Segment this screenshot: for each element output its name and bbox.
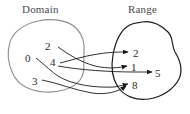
domain-element-0: 0 bbox=[25, 53, 31, 64]
range-element-1: 1 bbox=[131, 62, 137, 73]
arrow-4-to-2 bbox=[60, 52, 128, 63]
domain-set-label: Domain bbox=[22, 3, 59, 15]
arrow-4-to-5 bbox=[58, 66, 152, 72]
domain-element-2: 2 bbox=[45, 41, 51, 52]
range-element-5: 5 bbox=[155, 68, 161, 79]
domain-element-4: 4 bbox=[50, 57, 56, 68]
range-set-label: Range bbox=[128, 3, 157, 15]
mapping-diagram: Domain Range 2 0 4 3 2 1 5 8 bbox=[0, 0, 190, 114]
domain-element-3: 3 bbox=[32, 76, 38, 87]
range-element-8: 8 bbox=[132, 80, 138, 91]
range-element-2: 2 bbox=[133, 48, 139, 59]
range-set-outline bbox=[112, 22, 181, 100]
arrow-2-to-1 bbox=[58, 47, 127, 68]
